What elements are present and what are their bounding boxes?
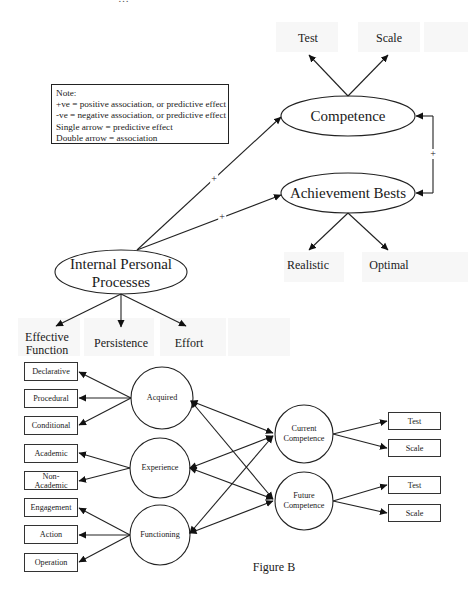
experience-label: Experience bbox=[142, 463, 179, 473]
legend-note-box: Note: +ve = positive association, or pre… bbox=[51, 84, 229, 144]
non-academic-line2: Academic bbox=[34, 481, 67, 490]
future-scale-box: Scale bbox=[388, 504, 441, 522]
academic-box: Academic bbox=[24, 444, 78, 463]
non-academic-box: Non- Academic bbox=[24, 471, 78, 490]
current-competence-label-line2: Competence bbox=[284, 434, 325, 444]
current-test-box: Test bbox=[388, 412, 441, 430]
figure-caption: Figure B bbox=[253, 560, 295, 575]
future-test-box: Test bbox=[388, 476, 441, 494]
ipp-label-line1: Internal Personal bbox=[70, 256, 172, 273]
path-sign-ipp-achievement: + bbox=[218, 212, 226, 222]
competence-label: Competence bbox=[311, 108, 386, 125]
future-competence-label-line1: Future bbox=[293, 491, 314, 501]
path-sign-ipp-competence: + bbox=[210, 174, 218, 184]
note-title: Note: bbox=[56, 88, 224, 99]
path-sign-competence-achievement: + bbox=[429, 149, 437, 159]
effective-function-label-line2: Function bbox=[26, 343, 69, 358]
note-line-double-arrow: Double arrow = association bbox=[56, 133, 224, 144]
achievement-bests-label: Achievement Bests bbox=[290, 185, 406, 202]
competence-test-label: Test bbox=[298, 31, 318, 46]
future-competence-label-line2: Competence bbox=[284, 501, 325, 511]
realistic-label: Realistic bbox=[287, 258, 329, 273]
optimal-label: Optimal bbox=[369, 258, 408, 273]
conditional-box: Conditional bbox=[24, 416, 78, 435]
current-competence-label-line1: Current bbox=[291, 424, 316, 434]
engagement-box: Engagement bbox=[24, 498, 78, 517]
note-line-negative: -ve = negative association, or predictiv… bbox=[56, 110, 224, 121]
acquired-label: Acquired bbox=[147, 393, 177, 403]
action-box: Action bbox=[24, 525, 78, 544]
note-line-single-arrow: Single arrow = predictive effect bbox=[56, 122, 224, 133]
procedural-box: Procedural bbox=[24, 389, 78, 408]
current-scale-box: Scale bbox=[388, 439, 441, 457]
note-line-positive: +ve = positive association, or predictiv… bbox=[56, 99, 224, 110]
functioning-label: Functioning bbox=[140, 530, 180, 540]
diagram-canvas: … bbox=[0, 0, 468, 596]
ipp-label-line2: Processes bbox=[92, 274, 150, 291]
competence-scale-label: Scale bbox=[376, 31, 402, 46]
persistence-label: Persistence bbox=[94, 336, 148, 351]
declarative-box: Declarative bbox=[24, 362, 78, 381]
effort-label: Effort bbox=[175, 336, 203, 351]
non-academic-line1: Non- bbox=[43, 472, 60, 481]
operation-box: Operation bbox=[24, 553, 78, 572]
